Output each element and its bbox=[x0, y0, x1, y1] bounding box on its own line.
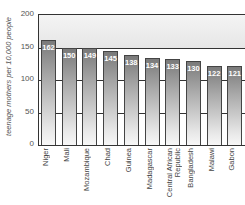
x-tick-label: Niger bbox=[42, 148, 50, 166]
bar-value-label: 145 bbox=[104, 54, 117, 63]
bar-value-label: 130 bbox=[187, 64, 200, 73]
bar: 134 bbox=[145, 58, 160, 145]
bar: 145 bbox=[103, 51, 118, 145]
bar-value-label: 134 bbox=[146, 61, 159, 70]
x-tick-label: Bangladesh bbox=[187, 148, 195, 188]
bar: 133 bbox=[165, 59, 180, 145]
plot-area: 162150149145138134133130122121 bbox=[38, 14, 245, 146]
bar-value-label: 149 bbox=[83, 51, 96, 60]
bar: 138 bbox=[124, 55, 139, 145]
bar-value-label: 162 bbox=[42, 43, 55, 52]
y-tick-label: 100 bbox=[14, 74, 34, 83]
x-tick-label: Central African Republic bbox=[166, 148, 182, 197]
bar: 122 bbox=[207, 66, 222, 145]
bar: 150 bbox=[62, 48, 77, 146]
y-tick-label: 200 bbox=[14, 9, 34, 18]
bar-value-label: 138 bbox=[125, 58, 138, 67]
x-tick-label: Mali bbox=[63, 148, 71, 162]
bar: 162 bbox=[41, 40, 56, 145]
x-tick-label: Chad bbox=[104, 148, 112, 166]
bar-value-label: 133 bbox=[166, 62, 179, 71]
bar-value-label: 150 bbox=[63, 51, 76, 60]
y-axis-label: teenage mothers per 10,000 people bbox=[4, 7, 13, 147]
bar-value-label: 121 bbox=[228, 69, 241, 78]
bar: 149 bbox=[82, 48, 97, 145]
x-tick-label: Malawi bbox=[208, 148, 216, 171]
y-tick-label: 0 bbox=[14, 139, 34, 148]
bar-value-label: 122 bbox=[208, 69, 221, 78]
bar: 130 bbox=[186, 61, 201, 146]
y-tick-label: 150 bbox=[14, 42, 34, 51]
x-tick-label: Madagascar bbox=[146, 148, 154, 189]
y-tick-label: 50 bbox=[14, 107, 34, 116]
x-tick-label: Guinea bbox=[125, 148, 133, 172]
bar-chart: teenage mothers per 10,000 people 050100… bbox=[0, 0, 245, 205]
bar: 121 bbox=[227, 66, 242, 145]
x-tick-label: Mozambique bbox=[83, 148, 91, 191]
upper-band bbox=[39, 15, 245, 48]
x-tick-label: Gabon bbox=[228, 148, 236, 171]
